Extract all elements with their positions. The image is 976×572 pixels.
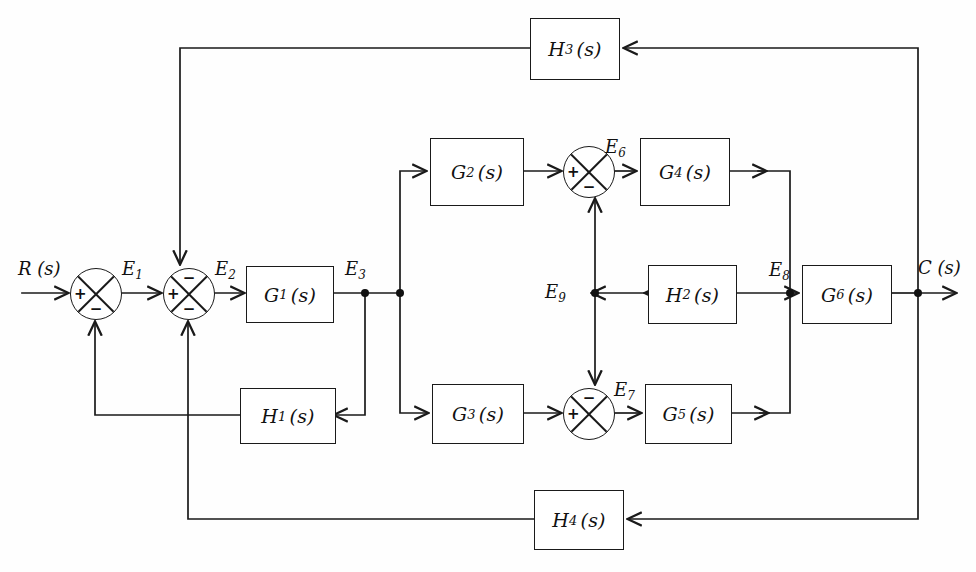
block-g4[interactable]: G4(s) — [640, 138, 730, 206]
s2-sign-bottom: − — [183, 302, 196, 317]
block-g6-name: G — [821, 284, 836, 306]
wire-e3-h1 — [334, 293, 365, 415]
block-g2-arg: (s) — [478, 161, 503, 183]
summing-junction-s7[interactable]: − + — [563, 388, 615, 440]
label-c-output: C (s) — [918, 257, 961, 278]
s1-sign-left: + — [74, 287, 87, 302]
label-e8: E8 — [769, 259, 790, 283]
node-c-output — [914, 289, 922, 297]
label-e1-name: E — [122, 258, 135, 279]
label-e7: E7 — [614, 379, 635, 403]
wire-e3-g3 — [400, 293, 428, 413]
s2-sign-top: − — [183, 271, 196, 286]
wire-e3-g2 — [400, 171, 426, 293]
node-e3-branch — [396, 289, 404, 297]
block-g3-name: G — [452, 403, 467, 425]
wire-h1-s1 — [95, 322, 240, 415]
label-e9-sub: 9 — [558, 291, 566, 305]
block-h2-name: H — [666, 284, 683, 306]
block-h1-sub: 1 — [278, 409, 286, 424]
s7-sign-left: + — [567, 407, 580, 422]
label-e3-name: E — [345, 258, 358, 279]
block-g1[interactable]: G1(s) — [246, 266, 334, 323]
block-h1[interactable]: H1(s) — [240, 388, 336, 444]
block-h1-arg: (s) — [290, 405, 315, 427]
block-g5[interactable]: G5(s) — [645, 384, 732, 444]
node-e3-takeoff — [361, 289, 369, 297]
block-h2-sub: 2 — [683, 287, 691, 302]
block-h2[interactable]: H2(s) — [648, 265, 737, 324]
block-g3-sub: 3 — [467, 407, 475, 422]
label-e7-sub: 7 — [627, 389, 635, 403]
block-h4-sub: 4 — [569, 513, 577, 528]
label-e3: E3 — [345, 258, 366, 282]
label-e9: E9 — [545, 281, 566, 305]
s6-sign-left: + — [567, 165, 580, 180]
block-h4[interactable]: H4(s) — [534, 490, 624, 550]
s7-sign-top: − — [583, 391, 596, 406]
summing-junction-s1[interactable]: + − — [70, 268, 122, 320]
block-h3-sub: 3 — [565, 42, 573, 57]
wire-g5-e8 — [760, 293, 790, 413]
block-g5-name: G — [662, 403, 677, 425]
label-e8-name: E — [769, 259, 782, 280]
label-r-text: R (s) — [18, 258, 61, 279]
block-g1-sub: 1 — [279, 287, 287, 302]
label-e3-sub: 3 — [358, 268, 366, 282]
s6-sign-bottom: − — [583, 180, 596, 195]
block-g4-sub: 4 — [674, 165, 682, 180]
label-e6-sub: 6 — [618, 146, 626, 160]
block-h3-arg: (s) — [577, 38, 602, 60]
block-g1-arg: (s) — [291, 284, 316, 306]
summing-junction-s2[interactable]: − + − — [163, 268, 215, 320]
label-r-input: R (s) — [18, 258, 61, 279]
label-e2-sub: 2 — [228, 268, 236, 282]
s1-sign-bottom: − — [90, 302, 103, 317]
block-g6-sub: 6 — [836, 287, 844, 302]
label-e8-sub: 8 — [782, 269, 790, 283]
label-e2-name: E — [215, 258, 228, 279]
label-e1-sub: 1 — [135, 268, 143, 282]
node-e9 — [591, 289, 599, 297]
block-h1-name: H — [261, 405, 278, 427]
s2-sign-left: + — [167, 287, 180, 302]
label-e6-name: E — [605, 136, 618, 157]
block-h3-name: H — [548, 38, 565, 60]
block-g5-sub: 5 — [678, 407, 686, 422]
block-h3[interactable]: H3(s) — [530, 18, 620, 80]
label-e1: E1 — [122, 258, 143, 282]
block-g4-name: G — [659, 161, 674, 183]
block-g6-arg: (s) — [848, 284, 873, 306]
block-h4-name: H — [552, 509, 569, 531]
block-g4-arg: (s) — [686, 161, 711, 183]
label-e7-name: E — [614, 379, 627, 400]
block-g2-sub: 2 — [466, 165, 474, 180]
block-diagram-canvas: + − − + − + − − + G1(s) G2(s) G3(s) G4(s… — [0, 0, 976, 572]
block-g6[interactable]: G6(s) — [802, 265, 892, 324]
block-g1-name: G — [264, 284, 279, 306]
label-e2: E2 — [215, 258, 236, 282]
node-e8 — [786, 289, 794, 297]
block-g3[interactable]: G3(s) — [432, 384, 524, 444]
block-g3-arg: (s) — [479, 403, 504, 425]
block-h2-arg: (s) — [694, 284, 719, 306]
block-g2[interactable]: G2(s) — [430, 138, 524, 206]
block-g2-name: G — [451, 161, 466, 183]
block-g5-arg: (s) — [689, 403, 714, 425]
label-c-text: C (s) — [918, 257, 961, 278]
label-e6: E6 — [605, 136, 626, 160]
block-h4-arg: (s) — [581, 509, 606, 531]
label-e9-name: E — [545, 281, 558, 302]
